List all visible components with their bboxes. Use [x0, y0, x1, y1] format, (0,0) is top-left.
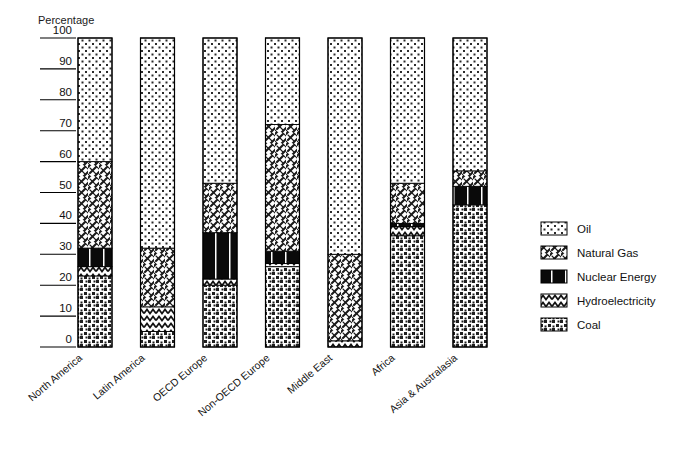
bar-segment	[328, 341, 362, 347]
legend-swatch	[541, 222, 567, 235]
chart-legend: OilNatural GasNuclear EnergyHydroelectri…	[541, 222, 657, 331]
bar-segment	[203, 285, 237, 347]
x-axis-category-label: Middle East	[285, 351, 335, 396]
legend-label: Coal	[577, 319, 601, 331]
stacked-bar	[328, 38, 362, 347]
bar-segment	[266, 267, 300, 347]
legend-swatch	[541, 246, 567, 259]
bar-segment	[453, 38, 487, 171]
stacked-bar	[391, 38, 425, 347]
chart-canvas: Percentage 0102030405060708090100 North …	[0, 0, 700, 458]
stacked-bar	[266, 38, 300, 347]
bar-segment	[391, 223, 425, 226]
bar-segment	[391, 226, 425, 235]
y-axis-tick-label: 20	[59, 271, 72, 283]
y-axis-tick-label: 60	[59, 148, 72, 160]
bar-segment	[78, 38, 112, 162]
y-axis-ticks: 0102030405060708090100	[40, 24, 76, 347]
bar-segment	[78, 162, 112, 249]
x-axis-category-label: Latin America	[90, 351, 147, 401]
y-axis-tick-label: 90	[59, 55, 72, 67]
legend-swatch	[541, 318, 567, 331]
stacked-bar	[453, 38, 487, 347]
bar-segment	[391, 183, 425, 223]
y-axis-tick-label: 70	[59, 117, 72, 129]
bar-segment	[203, 233, 237, 279]
bar-segment	[78, 267, 112, 276]
bar-segment	[328, 254, 362, 341]
legend-label: Oil	[577, 223, 591, 235]
x-axis-category-label: North America	[26, 351, 85, 403]
x-axis-category-labels: North AmericaLatin AmericaOECD EuropeNon…	[26, 351, 460, 418]
bar-segment	[141, 38, 175, 248]
legend-label: Hydroelectricity	[577, 295, 656, 307]
stacked-bar	[203, 38, 237, 347]
legend-label: Natural Gas	[577, 247, 639, 259]
bar-segment	[78, 248, 112, 267]
bar-segment	[141, 332, 175, 347]
y-axis-tick-label: 50	[59, 179, 72, 191]
bar-segment	[203, 183, 237, 232]
y-axis-tick-label: 0	[66, 333, 72, 345]
bar-segment	[453, 186, 487, 205]
bar-segment	[391, 38, 425, 183]
y-axis-tick-label: 80	[59, 86, 72, 98]
bar-segment	[453, 205, 487, 347]
y-axis-tick-label: 10	[59, 302, 72, 314]
bar-segment	[266, 264, 300, 267]
bars-layer	[78, 38, 487, 347]
energy-mix-stacked-bar-chart: Percentage 0102030405060708090100 North …	[0, 0, 700, 458]
bar-segment	[203, 38, 237, 183]
stacked-bar	[78, 38, 112, 347]
bar-segment	[141, 248, 175, 307]
y-axis-tick-label: 40	[59, 209, 72, 221]
bar-segment	[78, 276, 112, 347]
bar-segment	[266, 251, 300, 263]
bar-segment	[203, 279, 237, 285]
legend-label: Nuclear Energy	[577, 271, 657, 283]
bar-segment	[453, 171, 487, 186]
bar-segment	[391, 236, 425, 347]
x-axis-category-label: Africa	[369, 351, 397, 378]
x-axis-category-label: OECD Europe	[150, 351, 209, 403]
bar-segment	[141, 307, 175, 332]
y-axis-tick-label: 30	[59, 240, 72, 252]
x-axis-category-label: Asia & Australasia	[387, 351, 460, 415]
legend-swatch	[541, 294, 567, 307]
stacked-bar	[141, 38, 175, 347]
y-axis-tick-label: 100	[53, 24, 72, 36]
bar-segment	[266, 38, 300, 125]
bar-segment	[266, 125, 300, 252]
legend-swatch	[541, 270, 567, 283]
bar-segment	[328, 38, 362, 254]
